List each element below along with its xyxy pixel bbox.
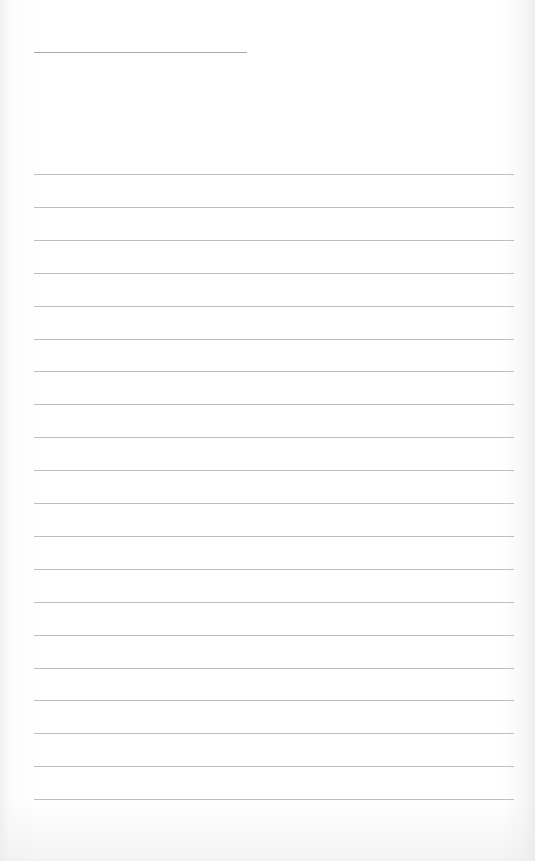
title-rule [34, 52, 247, 53]
ruled-line [34, 799, 514, 800]
ruled-line [34, 635, 514, 636]
ruled-line [34, 174, 514, 175]
page-shadow [0, 801, 535, 861]
ruled-line [34, 207, 514, 208]
ruled-line [34, 602, 514, 603]
ruled-line [34, 437, 514, 438]
ruled-line [34, 733, 514, 734]
ruled-line [34, 700, 514, 701]
ruled-line [34, 339, 514, 340]
ruled-line [34, 766, 514, 767]
ruled-line [34, 371, 514, 372]
ruled-line [34, 240, 514, 241]
ruled-line [34, 569, 514, 570]
ruled-line [34, 536, 514, 537]
lined-paper-page [0, 0, 535, 861]
ruled-line [34, 306, 514, 307]
ruled-line [34, 273, 514, 274]
ruled-line [34, 668, 514, 669]
ruled-line [34, 404, 514, 405]
ruled-line [34, 503, 514, 504]
ruled-line [34, 470, 514, 471]
